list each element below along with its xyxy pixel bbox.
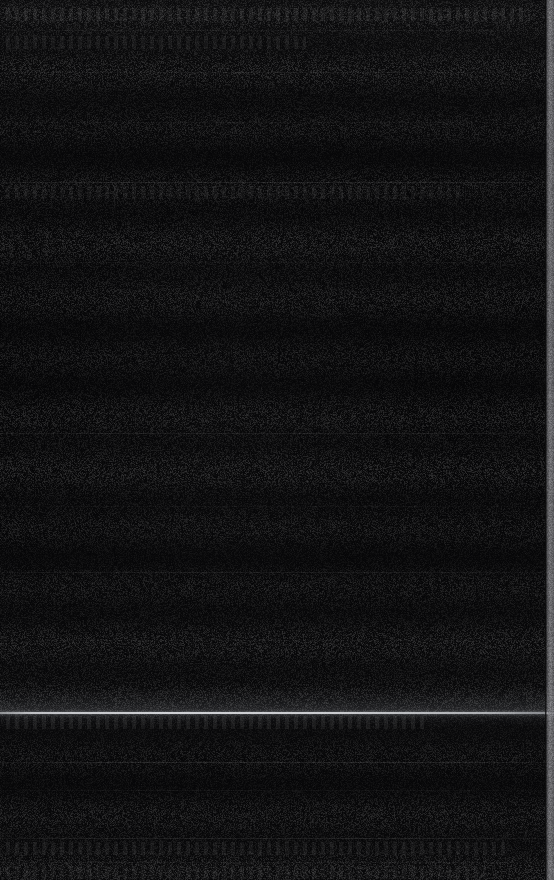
background-field <box>0 0 554 880</box>
right-edge-strip[interactable] <box>545 0 554 880</box>
edge-strip-noise <box>545 0 554 880</box>
screen-capture <box>0 0 554 880</box>
bright-scan-line <box>0 712 554 714</box>
